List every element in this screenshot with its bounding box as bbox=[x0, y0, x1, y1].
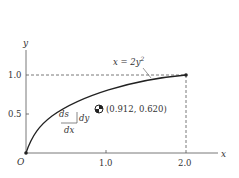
x-axis-label: x bbox=[221, 149, 226, 159]
ds-label: ds bbox=[59, 109, 69, 119]
equation-label: x = 2y2 bbox=[113, 55, 145, 67]
curve bbox=[26, 75, 186, 153]
dy-label: dy bbox=[79, 113, 89, 123]
arc-length-diagram: y x O 1.0 0.5 1.0 2.0 x = 2y2 ds dy dx (… bbox=[0, 0, 239, 178]
y-tick-label-1: 1.0 bbox=[8, 70, 22, 80]
dx-label: dx bbox=[64, 125, 74, 135]
y-axis-label: y bbox=[22, 38, 29, 48]
centroid-icon bbox=[95, 105, 103, 113]
x-tick-label-1: 1.0 bbox=[99, 158, 113, 168]
origin-point bbox=[24, 151, 28, 155]
y-tick-label-05: 0.5 bbox=[8, 109, 22, 119]
equation-leader bbox=[143, 68, 151, 78]
origin-label: O bbox=[17, 157, 25, 167]
centroid-label: (0.912, 0.620) bbox=[106, 104, 167, 114]
end-point bbox=[184, 73, 188, 77]
x-tick-label-2: 2.0 bbox=[178, 158, 192, 168]
